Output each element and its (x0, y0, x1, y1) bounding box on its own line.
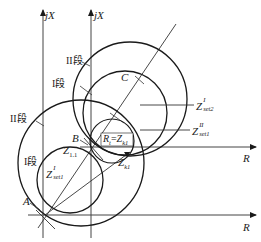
left-jx-label: jX (45, 10, 55, 21)
upper-zone1-label: I段 (52, 79, 65, 89)
lower-r-label: R (243, 222, 250, 233)
left-zone2-label: II段 (10, 114, 27, 124)
upper-zone2-label: II段 (66, 56, 83, 66)
point-c-label: C (121, 72, 128, 83)
zk1-label: Zk1 (118, 157, 130, 168)
upper-r-label: R (243, 153, 250, 164)
rt-eq-zk1-label: Rt=Zk1 (103, 134, 128, 144)
z-set1-I-label: ZIset1 (46, 167, 66, 180)
point-b-label: B (72, 133, 79, 144)
z-set2-I-label: ZIset2 (196, 99, 216, 112)
a-leader (30, 203, 40, 210)
z11-label: Z1.1 (63, 145, 77, 156)
diagram-graphics (0, 0, 261, 242)
point-a-label: A (23, 196, 30, 207)
z-set1-II-label: ZIIset1 (192, 124, 212, 137)
impedance-relay-diagram: jX jX R R A B C II段 I段 II段 I段 ZIset2 ZII… (0, 0, 261, 242)
line-impedance-ray (38, 24, 176, 228)
right-jx-label: jX (94, 10, 104, 21)
left-zone1-label: I段 (24, 157, 37, 167)
